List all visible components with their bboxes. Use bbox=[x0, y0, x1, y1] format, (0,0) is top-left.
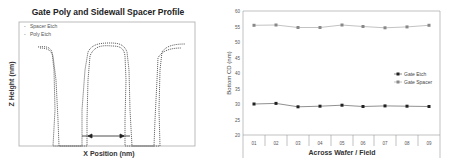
svg-text:20: 20 bbox=[235, 133, 241, 138]
profile-chart: Gate Poly and Sidewall Spacer Profile Sp… bbox=[8, 7, 195, 158]
figure: Gate Poly and Sidewall Spacer Profile Sp… bbox=[0, 0, 450, 167]
gate-etch-markers bbox=[253, 102, 431, 108]
svg-text:55: 55 bbox=[235, 25, 241, 30]
cd-ylabel: Bottom CD (nm) bbox=[226, 51, 232, 94]
legend-gate-spacer: Gate Spacer bbox=[404, 79, 432, 85]
profile-xlabel: X Position (nm) bbox=[83, 150, 134, 158]
svg-text:07: 07 bbox=[382, 141, 388, 146]
svg-text:01: 01 bbox=[251, 141, 257, 146]
legend-poly-etch: Poly Etch bbox=[30, 31, 51, 37]
svg-text:08: 08 bbox=[404, 141, 410, 146]
svg-text:02: 02 bbox=[273, 141, 279, 146]
cd-legend: Gate Etch Gate Spacer bbox=[394, 71, 432, 85]
profile-chart-title: Gate Poly and Sidewall Spacer Profile bbox=[32, 7, 185, 17]
cd-xlabel: Across Wafer / Field bbox=[308, 149, 375, 156]
gate-spacer-markers bbox=[253, 24, 431, 30]
cd-arrow bbox=[82, 134, 130, 138]
svg-text:45: 45 bbox=[235, 56, 241, 61]
profile-plot-frame bbox=[19, 22, 195, 146]
svg-text:60: 60 bbox=[235, 9, 241, 14]
legend-spacer-etch: Spacer Etch bbox=[30, 23, 57, 29]
legend-marker-spacer: - bbox=[24, 23, 26, 29]
legend-gate-etch: Gate Etch bbox=[404, 71, 426, 77]
svg-text:05: 05 bbox=[339, 141, 345, 146]
legend-marker-poly: - bbox=[24, 31, 26, 37]
svg-text:03: 03 bbox=[295, 141, 301, 146]
svg-text:04: 04 bbox=[317, 141, 323, 146]
x-axis-ticks: 01 02 03 04 05 06 07 08 09 bbox=[251, 141, 432, 146]
svg-text:30: 30 bbox=[235, 102, 241, 107]
svg-text:40: 40 bbox=[235, 71, 241, 76]
bottom-cd-chart: 60 55 50 45 40 35 30 25 20 01 02 03 04 0… bbox=[226, 9, 440, 158]
profile-ylabel: Z Height (nm) bbox=[8, 61, 16, 106]
svg-text:35: 35 bbox=[235, 87, 241, 92]
svg-text:50: 50 bbox=[235, 40, 241, 45]
svg-text:25: 25 bbox=[235, 118, 241, 123]
svg-text:06: 06 bbox=[360, 141, 366, 146]
profile-curves bbox=[38, 43, 185, 146]
svg-text:09: 09 bbox=[426, 141, 432, 146]
y-axis-ticks: 60 55 50 45 40 35 30 25 20 bbox=[235, 9, 241, 138]
